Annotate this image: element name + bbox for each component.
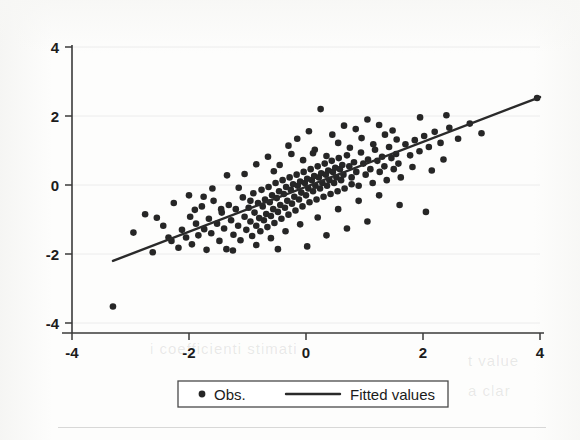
scatter-point (286, 174, 293, 181)
scatter-point (297, 221, 304, 228)
scatter-point (409, 164, 416, 171)
x-tick-label: 4 (536, 344, 545, 361)
scatter-point (282, 228, 289, 235)
scatter-point (426, 144, 433, 151)
scatter-point (288, 151, 295, 158)
scatter-point (278, 216, 285, 223)
scatter-point (364, 116, 371, 123)
scatter-point (249, 233, 256, 240)
scatter-point (240, 194, 247, 201)
scatter-point (253, 161, 260, 168)
scatter-point (285, 211, 292, 218)
scatter-point (421, 133, 428, 140)
scatter-point (210, 198, 217, 205)
scatter-point (335, 206, 342, 213)
scatter-point (253, 222, 260, 229)
scatter-point (347, 144, 354, 151)
scatter-point (186, 192, 193, 199)
scatter-point (339, 162, 346, 169)
scatter-point (221, 225, 228, 232)
scatter-point (271, 220, 278, 227)
scatter-point (367, 166, 374, 173)
scatter-point (183, 234, 190, 241)
scatter-point (329, 131, 336, 138)
scatter-point (289, 200, 296, 207)
scatter-point (314, 163, 321, 170)
scatter-point (230, 231, 237, 238)
scatter-point (160, 222, 167, 229)
scatter-point (335, 155, 342, 162)
scatter-point (261, 217, 268, 224)
scatter-point (216, 238, 223, 245)
scatter-point (383, 177, 390, 184)
scatter-point (362, 171, 369, 178)
y-tick-label: 0 (51, 177, 59, 194)
scatter-point (203, 247, 210, 254)
scatter-point (455, 135, 462, 142)
scatter-point (478, 130, 485, 137)
scatter-point (243, 227, 250, 234)
scatter-point (296, 196, 303, 203)
scatter-point (300, 169, 307, 176)
scatter-point (304, 243, 311, 250)
scatter-point (389, 127, 396, 134)
legend-group: Obs.Fitted values (178, 381, 448, 407)
scatter-point (142, 211, 149, 218)
scatter-point (334, 188, 341, 195)
scatter-point (187, 213, 194, 220)
scatter-point (364, 218, 371, 225)
scatter-point (189, 241, 196, 248)
scatter-point (195, 232, 202, 239)
scatter-point (235, 184, 242, 191)
scatter-point (300, 157, 307, 164)
scatter-point (264, 224, 271, 231)
y-tick-label: -4 (46, 315, 60, 332)
scatter-point (376, 122, 383, 129)
scatter-point (431, 129, 438, 136)
scatter-point (228, 217, 235, 224)
scatter-point (224, 172, 231, 179)
scatter-point (376, 192, 383, 199)
scatter-point (241, 213, 248, 220)
scatter-point (179, 227, 186, 234)
scatter-point (355, 182, 362, 189)
y-tick-label: 4 (51, 39, 60, 56)
scatter-point (323, 232, 330, 239)
scatter-point (271, 168, 278, 175)
legend-fit-label: Fitted values (350, 386, 435, 403)
scatter-point (265, 184, 272, 191)
scatter-point (208, 230, 215, 237)
scatter-point (323, 153, 330, 160)
scatter-point (154, 214, 161, 221)
scatter-point (306, 199, 313, 206)
scatter-point (192, 207, 199, 214)
scatter-point (199, 203, 206, 210)
scatter-point (275, 209, 282, 216)
scatter-point (423, 209, 430, 216)
scatter-point (348, 174, 355, 181)
scatter-point (314, 214, 321, 221)
scatter-point (268, 235, 275, 242)
x-tick-label: -2 (182, 344, 195, 361)
scatter-point (223, 246, 230, 253)
scatter-point (268, 213, 275, 220)
scatter-point (344, 152, 351, 159)
scatter-point (335, 140, 342, 147)
legend-obs-label: Obs. (214, 386, 246, 403)
scatter-point (247, 218, 254, 225)
scatter-point (285, 142, 292, 149)
scatter-point (416, 148, 423, 155)
scatter-point (193, 220, 200, 227)
scatter-point (293, 171, 300, 178)
scatter-point (355, 198, 362, 205)
scatter-point (351, 159, 358, 166)
scatter-point (265, 153, 272, 160)
scatter-point (110, 303, 117, 310)
scatter-point (390, 166, 397, 173)
scatter-point (294, 135, 301, 142)
scatter-point (341, 185, 348, 192)
scatter-point (130, 229, 137, 236)
scatter-point (395, 160, 402, 167)
scanned-figure-page: i coefficienti stimati t value a clar -4… (0, 0, 580, 440)
x-tick-label: -4 (65, 344, 79, 361)
